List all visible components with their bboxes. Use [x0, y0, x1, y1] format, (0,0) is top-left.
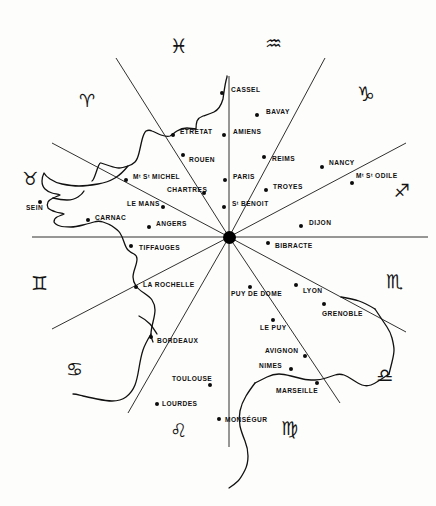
spoke-nne-aquarius — [229, 58, 325, 237]
spoke-ese-scorpio — [229, 237, 406, 332]
city-reims-label: REIMS — [272, 156, 295, 163]
city-lyon-label: LYON — [303, 288, 323, 295]
zodiac-scorpio: ♏ — [386, 272, 403, 291]
city-dijon-label: DIJON — [309, 220, 331, 227]
france-coastline — [42, 76, 394, 488]
city-nancy-label: NANCY — [329, 160, 355, 167]
zodiac-pisces: ♓ — [170, 36, 188, 56]
city-lourdes-label: LOURDES — [162, 401, 197, 408]
zodiac-leo: ♌ — [170, 421, 187, 440]
city-angers-label: ANGERS — [156, 221, 187, 228]
city-mont-ste-odile-label: Mᵗ Sᵗ ODILE — [356, 173, 398, 180]
coastline-segment-1 — [42, 166, 155, 342]
city-toulouse-label: TOULOUSE — [172, 376, 212, 383]
map-canvas — [0, 0, 436, 506]
zodiac-virgo: ♍ — [281, 419, 298, 438]
city-la-rochelle-label: LA ROCHELLE — [143, 282, 195, 289]
city-sein-label: SEIN — [26, 205, 43, 212]
city-avignon-label: AVIGNON — [265, 348, 298, 355]
city-amiens-label: AMIENS — [233, 129, 261, 136]
spoke-sse-virgo — [229, 237, 340, 403]
city-st-benoit-label: Sᵗ BENOIT — [232, 201, 269, 208]
city-le-puy-label: LE PUY — [260, 325, 287, 332]
city-grenoble-label: GRENOBLE — [322, 311, 363, 318]
city-etretat-label: ETRETAT — [180, 129, 213, 136]
city-tiffauges-label: TIFFAUGES — [139, 245, 180, 252]
coastline-segment-7 — [341, 297, 375, 309]
center-hub — [223, 231, 236, 244]
city-chartres-label: CHARTRES — [167, 187, 207, 194]
city-cassel-label: CASSEL — [231, 87, 260, 94]
zodiac-map-figure: CASSELBAVAYETRETATAMIENSROUENREIMSNANCYM… — [0, 0, 436, 506]
city-troyes-label: TROYES — [273, 184, 303, 191]
city-bordeaux-label: BORDEAUX — [157, 338, 198, 345]
spoke-nnw-pisces — [116, 58, 229, 237]
zodiac-aquarius: ♒ — [265, 34, 282, 53]
zodiac-cancer: ♋ — [66, 360, 83, 379]
city-le-mans-label: LE MANS — [127, 201, 160, 208]
zodiac-spokes — [32, 58, 428, 447]
zodiac-libra: ♎ — [376, 366, 393, 385]
coastline-segment-8 — [229, 383, 255, 488]
city-marseille-label: MARSEILLE — [276, 388, 318, 395]
city-carnac-label: CARNAC — [95, 215, 126, 222]
zodiac-gemini: ♊ — [31, 274, 48, 293]
city-bibracte-label: BIBRACTE — [275, 243, 313, 250]
zodiac-sagittarius: ♐ — [394, 182, 410, 200]
city-puy-de-dome-label: PUY DE DOME — [231, 291, 282, 298]
zodiac-aries: ♈ — [79, 92, 95, 110]
city-rouen-label: ROUEN — [189, 157, 215, 164]
city-monsegur-label: MONSÉGUR — [225, 417, 267, 424]
zodiac-capricorn: ♑ — [357, 84, 375, 104]
city-bavay-label: BAVAY — [266, 109, 290, 116]
city-mont-st-michel-label: Mᵗ Sᵗ MICHEL — [133, 174, 180, 181]
city-nimes-label: NIMES — [259, 363, 282, 370]
coastline-segment-3 — [73, 334, 151, 401]
city-paris-label: PARIS — [233, 174, 255, 181]
zodiac-taurus: ♉ — [22, 170, 38, 188]
